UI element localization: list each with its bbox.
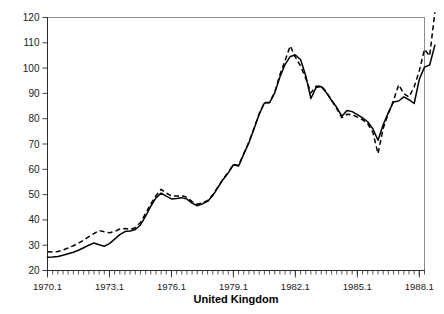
- y-tick-group: [43, 18, 48, 271]
- y-tick-label: 60: [28, 164, 40, 175]
- chart-axis-title: United Kingdom: [194, 293, 279, 305]
- x-tick-label: 1973.1: [95, 281, 124, 292]
- y-tick-label: 30: [28, 240, 40, 251]
- y-tick-label: 20: [28, 265, 40, 276]
- x-minor-tick-group: [48, 271, 425, 275]
- y-tick-label: 100: [23, 63, 40, 74]
- x-tick-label: 1970.1: [33, 281, 62, 292]
- y-tick-label: 120: [23, 12, 40, 23]
- y-tick-label-group: 2030405060708090100110120: [23, 12, 40, 276]
- y-tick-label: 80: [28, 113, 40, 124]
- y-tick-label: 110: [24, 37, 40, 48]
- y-tick-label: 90: [28, 88, 40, 99]
- y-tick-label: 40: [28, 214, 40, 225]
- x-major-tick-group: [48, 271, 420, 278]
- x-tick-label: 1982.1: [281, 281, 310, 292]
- chart-container: 2030405060708090100110120 1970.11973.119…: [0, 0, 444, 314]
- y-tick-label: 70: [28, 139, 40, 150]
- x-tick-label-group: 1970.11973.11976.11979.11982.11985.11988…: [33, 281, 434, 292]
- y-tick-label: 50: [28, 189, 40, 200]
- x-tick-label: 1988.1: [405, 281, 434, 292]
- x-tick-label: 1985.1: [343, 281, 372, 292]
- x-tick-label: 1979.1: [219, 281, 248, 292]
- line-chart: 2030405060708090100110120 1970.11973.119…: [0, 0, 444, 314]
- data-line-dashed: [48, 12, 435, 252]
- x-tick-label: 1976.1: [157, 281, 186, 292]
